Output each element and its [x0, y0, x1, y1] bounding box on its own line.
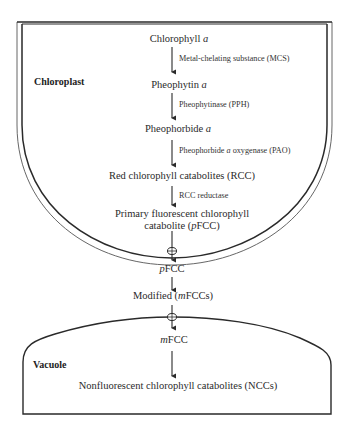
chlorophyll-degradation-pathway-diagram: Chloroplast Vacuole Chlorophyll a Pheoph… — [0, 0, 349, 432]
chloroplast-label: Chloroplast — [34, 77, 84, 87]
enzyme-mcs: Metal-chelating substance (MCS) — [179, 55, 290, 63]
enzyme-pao: Pheophorbide a oxygenase (PAO) — [179, 147, 290, 155]
node-rcc: Red chlorophyll catabolites (RCC) — [109, 171, 255, 182]
node-pfcc: pFCC — [159, 264, 184, 275]
chloroplast-transporter-icon — [168, 247, 177, 255]
node-modified-mfccs: Modified (mFCCs) — [133, 291, 213, 302]
vacuole-membrane — [23, 317, 331, 414]
vacuole-transporter-icon — [168, 313, 177, 321]
node-pheophytin-a: Pheophytin a — [151, 80, 207, 91]
node-nccs: Nonfluorescent chlorophyll catabolites (… — [79, 381, 278, 392]
vacuole-label: Vacuole — [33, 360, 67, 370]
enzyme-pph: Pheophytinase (PPH) — [179, 101, 249, 109]
node-pheophorbide-a: Pheophorbide a — [145, 124, 211, 135]
node-pfcc-primary: Primary fluorescent chlorophyll cataboli… — [115, 208, 249, 232]
node-mfcc: mFCC — [160, 335, 187, 346]
node-chlorophyll-a: Chlorophyll a — [150, 34, 209, 45]
enzyme-rcc-reductase: RCC reductase — [179, 192, 228, 200]
